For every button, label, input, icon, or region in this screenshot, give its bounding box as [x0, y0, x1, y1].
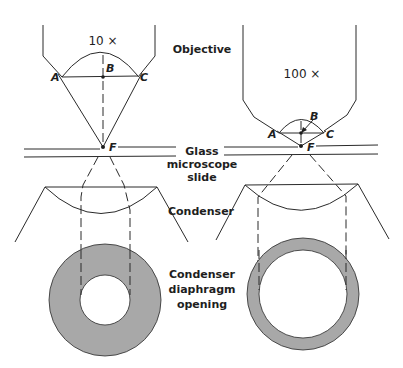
right-point-f-dot	[299, 144, 303, 148]
label-slide-2: microscope	[167, 158, 238, 171]
microscope-diagram: 10 × A B C F Objective Glass microscope …	[0, 0, 403, 368]
right-magnification: 100 ×	[284, 67, 321, 81]
right-condenser-lens-arc	[245, 184, 358, 210]
left-objective-housing-left	[43, 25, 62, 77]
left-slide-bottom-line	[24, 156, 176, 157]
right-point-b-dot	[299, 131, 303, 135]
right-objective-housing-left	[243, 25, 279, 133]
right-condenser-outline	[216, 184, 389, 240]
right-panel: 100 × A B C F	[216, 25, 389, 350]
left-panel: 10 × A B C F	[15, 25, 188, 356]
label-objective: Objective	[173, 43, 232, 56]
center-labels: Objective Glass microscope slide Condens…	[167, 43, 238, 311]
left-chord-ac	[62, 76, 138, 77]
right-label-a: A	[267, 128, 277, 141]
left-condenser-outline	[15, 187, 188, 242]
left-label-b: B	[106, 62, 114, 75]
left-cone-line-af	[58, 74, 103, 147]
right-diaphragm-opening	[259, 250, 347, 338]
right-objective-housing-right	[324, 25, 356, 131]
left-point-b-dot	[101, 75, 105, 79]
right-slide-top-line-right	[316, 145, 378, 146]
right-label-b: B	[310, 110, 318, 123]
label-diaphragm-3: opening	[177, 298, 227, 311]
right-slide-bottom-line	[224, 154, 378, 155]
left-label-a: A	[50, 71, 60, 84]
left-objective-lens-arc	[62, 52, 138, 77]
right-label-c: C	[326, 128, 334, 141]
label-diaphragm-2: diaphragm	[169, 283, 236, 296]
left-magnification: 10 ×	[88, 34, 117, 48]
label-slide-3: slide	[187, 171, 216, 184]
left-label-f: F	[109, 141, 117, 154]
left-diaphragm-opening	[80, 275, 130, 325]
left-cone-line-cf	[103, 73, 142, 147]
left-condenser-lens-arc	[45, 187, 157, 214]
right-label-f: F	[307, 141, 315, 154]
left-label-c: C	[140, 71, 148, 84]
label-slide-1: Glass	[185, 145, 219, 158]
left-point-f-dot	[101, 145, 105, 149]
label-condenser: Condenser	[168, 205, 235, 218]
left-objective-housing-right	[138, 25, 155, 77]
label-diaphragm-1: Condenser	[169, 268, 236, 281]
